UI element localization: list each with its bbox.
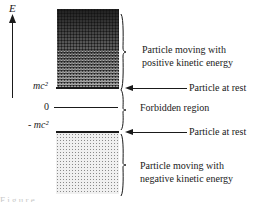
lower-brace-icon — [119, 134, 129, 196]
rest-top-arrow-line — [131, 88, 187, 89]
energy-axis — [12, 18, 13, 98]
negative-region-label-line1: Particle moving with — [140, 160, 224, 172]
rest-top-label: Particle at rest — [189, 82, 246, 94]
mc2-level-line — [56, 87, 119, 89]
axis-arrowhead-icon — [8, 14, 17, 24]
zero-level-line — [54, 107, 118, 108]
energy-axis-label: E — [9, 2, 16, 14]
upper-brace-icon — [119, 14, 129, 90]
negative-energy-continuum — [56, 133, 119, 194]
caption-fragment: F i g u r e — [0, 195, 35, 202]
negative-mc2-label: - mc² — [28, 119, 49, 131]
rest-bottom-label: Particle at rest — [189, 126, 246, 138]
rest-bottom-arrow-line — [131, 132, 187, 133]
positive-energy-texture — [57, 50, 119, 87]
positive-region-label-line2: positive kinetic energy — [142, 57, 233, 69]
middle-brace-icon — [119, 90, 129, 130]
mc2-label: mc² — [33, 80, 48, 92]
positive-region-label-line1: Particle moving with — [142, 44, 226, 56]
forbidden-region-label: Forbidden region — [140, 102, 209, 114]
negative-region-label-line2: negative kinetic energy — [140, 173, 233, 185]
zero-label: 0 — [44, 101, 49, 113]
